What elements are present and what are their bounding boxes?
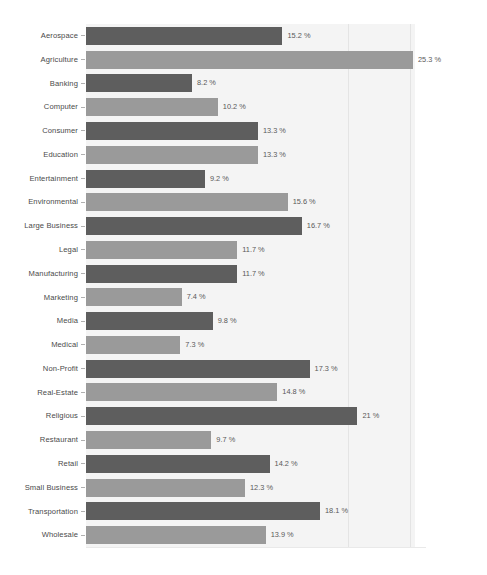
bar-row: Wholesale13.9 %: [0, 523, 487, 547]
bar-row: Environmental15.6 %: [0, 190, 487, 214]
bar-row: Medical7.3 %: [0, 333, 487, 357]
bar-value-label: 17.3 %: [315, 365, 338, 372]
category-label: Medical: [0, 341, 78, 349]
axis-tick: [81, 249, 85, 250]
bar-value-label: 13.3 %: [263, 127, 286, 134]
axis-tick: [81, 487, 85, 488]
bar: [86, 170, 205, 188]
bar: [86, 122, 258, 140]
axis-tick: [81, 154, 85, 155]
bar: [86, 455, 270, 473]
category-label: Non-Profit: [0, 365, 78, 373]
category-label: Education: [0, 151, 78, 159]
bar-row: Banking8.2 %: [0, 72, 487, 96]
category-label: Small Business: [0, 484, 78, 492]
category-label: Transportation: [0, 508, 78, 516]
category-label: Environmental: [0, 198, 78, 206]
bar-value-label: 11.7 %: [242, 246, 264, 253]
bar-row: Small Business12.3 %: [0, 476, 487, 500]
bar-row: Agriculture25.3 %: [0, 48, 487, 72]
bar-value-label: 21 %: [362, 413, 379, 420]
bar-value-label: 7.3 %: [185, 341, 204, 348]
bar-row: Restaurant9.7 %: [0, 428, 487, 452]
bar-row: Legal11.7 %: [0, 238, 487, 262]
bar: [86, 479, 245, 497]
category-label: Manufacturing: [0, 270, 78, 278]
axis-tick: [81, 511, 85, 512]
bar: [86, 312, 213, 330]
bar: [86, 146, 258, 164]
bar-row: Computer10.2 %: [0, 95, 487, 119]
bar: [86, 265, 237, 283]
axis-tick: [81, 392, 85, 393]
bar-value-label: 9.8 %: [218, 317, 237, 324]
bar-value-label: 13.9 %: [271, 531, 294, 538]
bar: [86, 502, 320, 520]
bar-chart: Aerospace15.2 %Agriculture25.3 %Banking8…: [0, 0, 487, 575]
bar-value-label: 9.7 %: [216, 436, 235, 443]
category-label: Consumer: [0, 127, 78, 135]
category-label: Entertainment: [0, 175, 78, 183]
bar-value-label: 25.3 %: [418, 56, 441, 63]
axis-tick: [81, 226, 85, 227]
bar-row: Retail14.2 %: [0, 452, 487, 476]
bar-value-label: 14.8 %: [282, 389, 305, 396]
bar: [86, 288, 182, 306]
bar-value-label: 11.7 %: [242, 270, 264, 277]
axis-tick: [81, 297, 85, 298]
axis-tick: [81, 273, 85, 274]
axis-tick: [81, 440, 85, 441]
bar-row: Large Business16.7 %: [0, 214, 487, 238]
bar-row: Media9.8 %: [0, 309, 487, 333]
bar-row: Transportation18.1 %: [0, 499, 487, 523]
category-label: Computer: [0, 103, 78, 111]
bar-row: Non-Profit17.3 %: [0, 357, 487, 381]
category-label: Agriculture: [0, 56, 78, 64]
category-label: Large Business: [0, 222, 78, 230]
axis-tick: [81, 344, 85, 345]
axis-tick: [81, 416, 85, 417]
bar-value-label: 13.3 %: [263, 151, 286, 158]
axis-tick: [81, 130, 85, 131]
axis-tick: [81, 368, 85, 369]
axis-tick: [81, 202, 85, 203]
bar-value-label: 15.2 %: [287, 32, 310, 39]
bar: [86, 360, 310, 378]
category-label: Real-Estate: [0, 389, 78, 397]
bar-rows: Aerospace15.2 %Agriculture25.3 %Banking8…: [0, 24, 487, 547]
bar: [86, 74, 192, 92]
bar-value-label: 8.2 %: [197, 80, 216, 87]
bar: [86, 217, 302, 235]
bar: [86, 407, 357, 425]
bar-value-label: 10.2 %: [223, 103, 246, 110]
category-label: Wholesale: [0, 531, 78, 539]
bar: [86, 193, 288, 211]
bar: [86, 241, 237, 259]
axis-tick: [81, 463, 85, 464]
bar-value-label: 9.2 %: [210, 175, 229, 182]
bar-row: Entertainment9.2 %: [0, 167, 487, 191]
category-label: Restaurant: [0, 436, 78, 444]
bar-value-label: 18.1 %: [325, 508, 348, 515]
bar-value-label: 12.3 %: [250, 484, 273, 491]
bar-row: Education13.3 %: [0, 143, 487, 167]
category-label: Marketing: [0, 294, 78, 302]
axis-tick: [81, 107, 85, 108]
category-label: Legal: [0, 246, 78, 254]
category-label: Banking: [0, 80, 78, 88]
bar: [86, 336, 180, 354]
bar: [86, 98, 218, 116]
bar: [86, 526, 266, 544]
bar-row: Aerospace15.2 %: [0, 24, 487, 48]
bar: [86, 27, 282, 45]
bar-row: Marketing7.4 %: [0, 286, 487, 310]
axis-tick: [81, 83, 85, 84]
axis-tick: [81, 321, 85, 322]
bar-value-label: 7.4 %: [187, 294, 206, 301]
plot-bottom-rule: [86, 547, 426, 548]
bar: [86, 383, 277, 401]
bar-row: Real-Estate14.8 %: [0, 381, 487, 405]
axis-tick: [81, 35, 85, 36]
axis-tick: [81, 178, 85, 179]
bar-value-label: 14.2 %: [275, 460, 298, 467]
